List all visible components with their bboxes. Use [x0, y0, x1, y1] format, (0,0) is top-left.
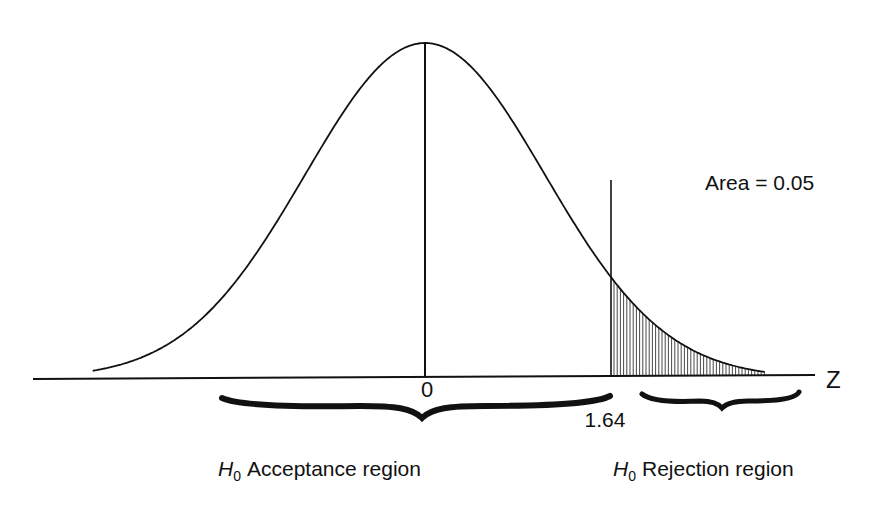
rejection-region-shading: [614, 281, 764, 376]
acceptance-brace: [222, 396, 610, 418]
normal-curve: [93, 43, 765, 372]
rejection-region-text: Rejection region: [642, 457, 794, 480]
rejection-region-label: H0Rejection region: [613, 457, 794, 484]
rejection-brace: [642, 392, 799, 408]
mean-tick-label: 0: [421, 377, 433, 402]
rejection-h-subscript: 0: [628, 468, 636, 484]
acceptance-h-subscript: 0: [233, 468, 241, 484]
area-label: Area = 0.05: [705, 171, 814, 194]
rejection-h-symbol: H: [613, 457, 629, 480]
acceptance-region-text: Acceptance region: [247, 457, 421, 480]
normal-distribution-chart: Area = 0.05 Z 0 1.64 H0Acceptance region…: [0, 0, 891, 514]
acceptance-region-label: H0Acceptance region: [218, 457, 421, 484]
z-axis-label: Z: [826, 366, 841, 393]
critical-value-tick-label: 1.64: [585, 408, 626, 431]
acceptance-h-symbol: H: [218, 457, 234, 480]
